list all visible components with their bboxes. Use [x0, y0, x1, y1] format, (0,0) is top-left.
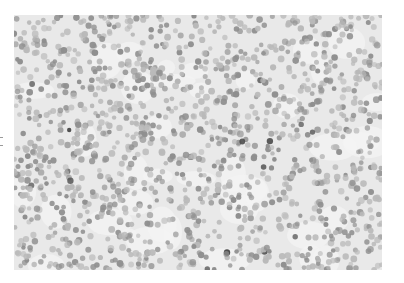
- micrograph-image: [14, 15, 382, 270]
- edge-mark: [0, 137, 3, 138]
- edge-mark: [0, 145, 3, 146]
- cell-field: [14, 15, 382, 270]
